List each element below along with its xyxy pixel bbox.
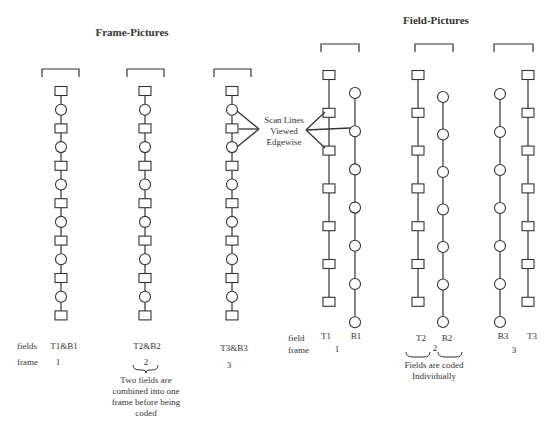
scan-line-top-square [522, 222, 534, 231]
diagram-canvas [0, 0, 556, 422]
scan-line-bottom-circle [227, 142, 238, 153]
scan-line-top-square [323, 260, 335, 269]
callout-line-3: Edgewise [264, 137, 304, 148]
field-bracket-1 [321, 44, 359, 52]
scan-line-bottom-circle [495, 241, 506, 252]
scan-line-bottom-circle [438, 317, 449, 328]
scan-line-bottom-circle [438, 204, 449, 215]
scan-line-bottom-circle [350, 202, 361, 213]
scan-line-top-square [139, 236, 151, 245]
scan-line-top-square [412, 222, 424, 231]
frame-pictures-title: Frame-Pictures [95, 26, 168, 38]
scan-line-top-square [522, 146, 534, 155]
scan-line-top-square [139, 124, 151, 133]
scan-line-bottom-circle [350, 279, 361, 290]
scan-line-top-square [412, 71, 424, 80]
scan-line-bottom-circle [140, 104, 151, 115]
scan-line-top-square [412, 260, 424, 269]
scan-line-top-square [412, 108, 424, 117]
scan-line-top-square [139, 161, 151, 170]
scan-line-top-square [226, 236, 238, 245]
scan-line-top-square [139, 87, 151, 96]
scan-line-bottom-circle [140, 142, 151, 153]
scan-line-bottom-circle [438, 92, 449, 103]
scan-line-top-square [139, 199, 151, 208]
field-group-3-left: B3 [498, 331, 509, 341]
frame-col-1-fields: T1&B1 [50, 341, 78, 351]
scan-line-top-square [522, 71, 534, 80]
scan-line-bottom-circle [227, 216, 238, 227]
field-group-3-frame: 3 [512, 345, 517, 355]
scan-line-bottom-circle [140, 291, 151, 302]
scan-line-bottom-circle [350, 126, 361, 137]
scan-line-top-square [522, 184, 534, 193]
scan-line-bottom-circle [227, 104, 238, 115]
fields-row-label: fields [17, 341, 37, 351]
field-pictures-title: Field-Pictures [403, 14, 469, 26]
field-group-2-right: B2 [442, 333, 453, 343]
frame-note-line: Two fields are [112, 375, 180, 386]
scan-line-bottom-circle [495, 165, 506, 176]
scan-line-bottom-circle [140, 216, 151, 227]
scan-line-bottom-circle [140, 254, 151, 265]
frame-col-1-frame: 1 [56, 357, 61, 367]
frame-note-line: frame before being [112, 397, 180, 408]
scan-line-bottom-circle [495, 317, 506, 328]
scan-line-bottom-circle [350, 88, 361, 99]
field-group-2-left: T2 [416, 333, 426, 343]
scan-line-bottom-circle [350, 317, 361, 328]
scan-line-top-square [55, 311, 67, 320]
scan-line-bottom-circle [56, 216, 67, 227]
scan-line-top-square [522, 297, 534, 306]
scan-line-bottom-circle [56, 291, 67, 302]
scan-line-top-square [522, 260, 534, 269]
frame-bracket-1 [42, 69, 79, 77]
scan-line-top-square [55, 199, 67, 208]
scan-line-top-square [226, 311, 238, 320]
field-group-1-frame: 1 [335, 344, 340, 354]
scan-line-top-square [226, 161, 238, 170]
scan-line-bottom-circle [56, 254, 67, 265]
scan-line-top-square [139, 311, 151, 320]
field-bracket-2 [415, 44, 453, 52]
scan-line-bottom-circle [227, 254, 238, 265]
scan-line-top-square [55, 161, 67, 170]
field-row-label: field [288, 333, 305, 343]
field-bracket-3 [494, 44, 533, 52]
frame-row-label: frame [17, 357, 38, 367]
scan-line-bottom-circle [56, 104, 67, 115]
frame-note: Two fields are combined into one frame b… [112, 375, 180, 419]
scan-line-bottom-circle [350, 240, 361, 251]
scan-line-top-square [55, 124, 67, 133]
scan-line-bottom-circle [495, 203, 506, 214]
frame-bracket-3 [214, 69, 251, 77]
callout-line-2: Viewed [264, 126, 304, 137]
field-group-2-frame: 2 [433, 343, 438, 353]
scan-line-bottom-circle [438, 242, 449, 253]
scan-line-top-square [412, 146, 424, 155]
brace-field-2-left [406, 352, 430, 357]
scan-line-bottom-circle [56, 142, 67, 153]
scan-line-top-square [226, 124, 238, 133]
callout-line-1: Scan Lines [264, 115, 304, 126]
field-frame-row-label: frame [288, 345, 309, 355]
scan-line-top-square [226, 274, 238, 283]
frame-col-2-fields: T2&B2 [133, 341, 161, 351]
scan-line-top-square [412, 297, 424, 306]
frame-note-line: combined into one [112, 386, 180, 397]
field-note-line: Fields are coded [405, 360, 464, 371]
field-group-1-right: B1 [351, 331, 362, 341]
frame-note-line: coded [112, 408, 180, 419]
scan-line-top-square [323, 297, 335, 306]
scan-line-top-square [226, 199, 238, 208]
scan-line-bottom-circle [438, 167, 449, 178]
frame-bracket-2 [127, 69, 164, 77]
field-group-3-right: T3 [527, 331, 537, 341]
scan-line-top-square [226, 87, 238, 96]
scan-line-bottom-circle [140, 179, 151, 190]
scan-line-top-square [323, 71, 335, 80]
scan-line-bottom-circle [56, 179, 67, 190]
scan-line-top-square [522, 108, 534, 117]
frame-col-3-fields: T3&B3 [220, 343, 248, 353]
field-note: Fields are coded Individually [405, 360, 464, 382]
